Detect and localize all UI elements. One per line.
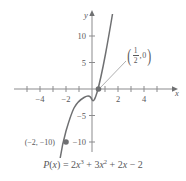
left-paren: ( bbox=[127, 46, 131, 65]
caption-constant: − 2 bbox=[127, 159, 143, 170]
y-axis: 10 5 −5 −10 y bbox=[73, 10, 95, 152]
x-axis-label: x bbox=[174, 88, 179, 98]
fraction-numerator: 1 bbox=[133, 47, 139, 55]
y-tick-label--10: −10 bbox=[73, 137, 86, 147]
local-point-label: (−2, −10) bbox=[25, 138, 56, 147]
caption-close-paren: ) = 2 bbox=[57, 159, 76, 170]
coordinate-plane: −4 −2 2 4 x 10 5 −5 −10 y (−2, − bbox=[0, 0, 186, 160]
fraction-one-half: 1 2 bbox=[133, 47, 139, 64]
x-tick-label--2: −2 bbox=[61, 94, 70, 104]
x-intercept-leader-line bbox=[101, 61, 127, 88]
x-tick-label--4: −4 bbox=[35, 94, 45, 104]
label-second-coordinate: 0 bbox=[142, 52, 146, 60]
caption-plus2: + 2 bbox=[107, 159, 123, 170]
x-tick-label-2: 2 bbox=[116, 94, 120, 104]
equation-caption: P(x) = 2x3 + 3x2 + 2x − 2 bbox=[0, 158, 186, 170]
local-point-marker bbox=[63, 139, 69, 145]
right-paren: ) bbox=[147, 46, 151, 65]
function-graph-figure: −4 −2 2 4 x 10 5 −5 −10 y (−2, − bbox=[0, 0, 186, 181]
y-axis-label: y bbox=[83, 10, 88, 20]
caption-plus1: + 3 bbox=[84, 159, 100, 170]
y-axis-arrow bbox=[89, 10, 94, 16]
y-tick-label-10: 10 bbox=[78, 31, 87, 41]
y-tick-label-5: 5 bbox=[82, 58, 86, 68]
fraction-denominator: 2 bbox=[133, 57, 139, 65]
x-intercept-label: ( 1 2 , 0 ) bbox=[126, 46, 153, 65]
y-tick-label--5: −5 bbox=[77, 111, 86, 121]
x-tick-label-4: 4 bbox=[142, 94, 147, 104]
